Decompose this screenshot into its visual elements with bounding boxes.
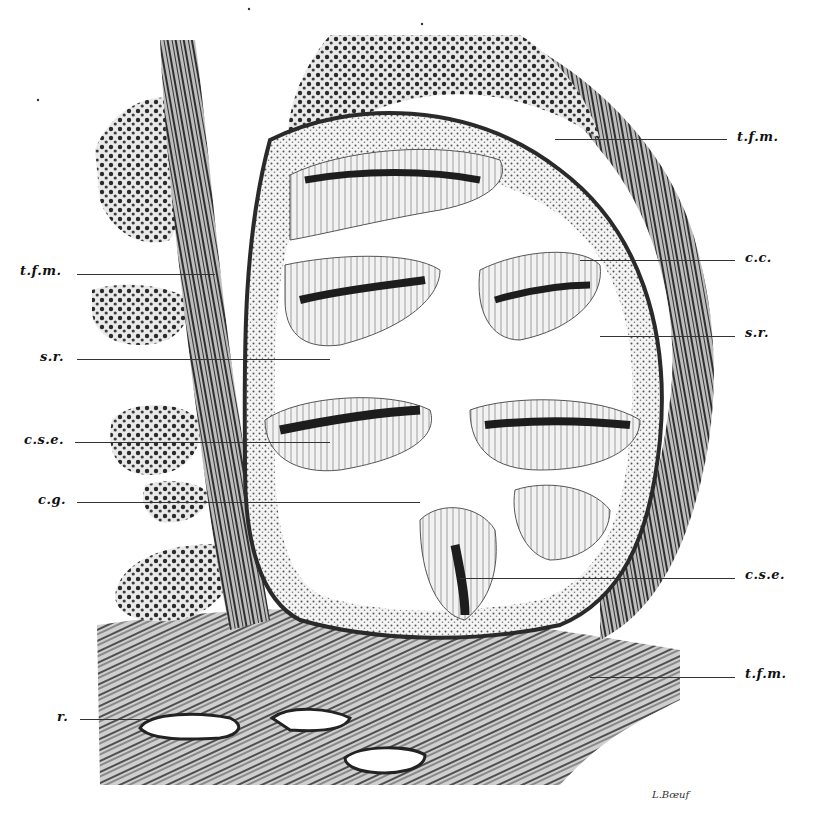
label-tfm-left: t.f.m. (20, 264, 61, 278)
speck (37, 99, 39, 101)
label-cse-left: c.s.e. (24, 433, 64, 447)
speck (248, 8, 250, 10)
label-tfm-bottom: t.f.m. (745, 667, 786, 681)
vessel-bottom (345, 748, 425, 773)
label-r: r. (57, 710, 68, 724)
left-lobe-bottom (115, 544, 233, 621)
leader-line-cg (77, 502, 420, 503)
label-tfm-top: t.f.m. (737, 130, 778, 144)
label-sr-right: s.r. (745, 326, 769, 340)
leader-line-sr-right (600, 336, 735, 337)
leader-line-cse-left (75, 442, 330, 443)
label-cse-right: c.s.e. (745, 568, 785, 582)
histology-figure (0, 0, 817, 821)
speck (421, 23, 423, 25)
left-lobe-cse (110, 405, 200, 475)
label-cg: c.g. (38, 493, 66, 507)
label-sr-left: s.r. (40, 350, 64, 364)
leader-line-cse-right (460, 578, 735, 579)
leader-line-tfm-left (77, 274, 215, 275)
fold-middle-right-core (485, 421, 630, 425)
vessel-left (140, 714, 239, 739)
left-lobe-middle (92, 285, 190, 345)
label-cc: c.c. (745, 251, 772, 265)
vessel-middle (272, 709, 350, 730)
leader-line-cc (580, 260, 735, 261)
leader-line-tfm-bottom (590, 677, 735, 678)
leader-line-r (80, 719, 150, 720)
artist-signature: L.Bœuf (652, 789, 689, 800)
leader-line-tfm-top (555, 139, 727, 140)
leader-line-sr-left (77, 359, 330, 360)
